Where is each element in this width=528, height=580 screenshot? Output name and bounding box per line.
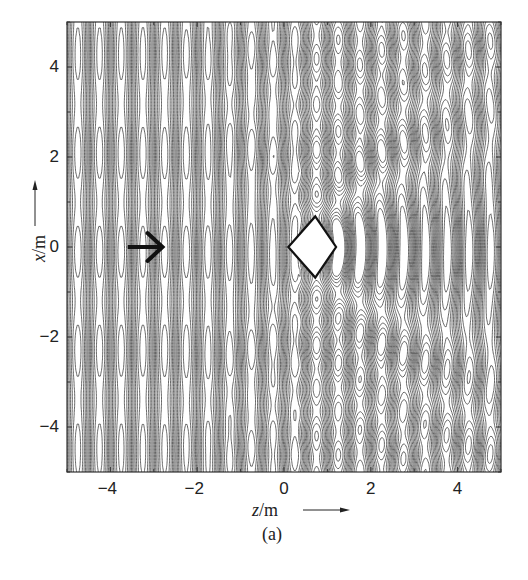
x-tick-label: 2: [351, 480, 391, 497]
x-axis-label-unit: /m: [259, 500, 278, 520]
y-axis-label-unit: /m: [29, 235, 49, 254]
x-axis-label-variable: z: [252, 500, 259, 520]
y-tick-label: −2: [19, 328, 59, 345]
y-axis-label: x/m: [29, 204, 50, 294]
x-tick-label: 0: [264, 480, 304, 497]
y-tick-label: 4: [19, 58, 59, 75]
contour-figure: −4−2024 −4−2024 z/m x/m (a): [0, 0, 528, 580]
x-tick-label: −4: [87, 480, 127, 497]
figure-caption: (a): [262, 524, 282, 545]
y-tick-label: −4: [19, 418, 59, 435]
x-tick-label: −2: [174, 480, 214, 497]
x-tick-label: 4: [438, 480, 478, 497]
y-tick-label: 2: [19, 148, 59, 165]
diamond-obstacle: [288, 216, 336, 277]
x-axis-label: z/m: [252, 500, 278, 521]
y-axis-label-variable: x: [29, 254, 49, 262]
